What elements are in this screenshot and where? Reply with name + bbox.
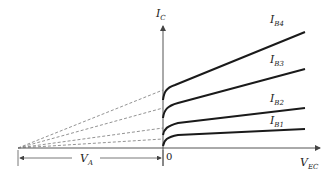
origin-label: 0	[166, 151, 172, 162]
bjt-characteristics-diagram: IB4 IB3 IB2 IB1 IC VEC 0 VA	[0, 0, 335, 180]
label-ib2: IB2	[269, 92, 285, 107]
label-ib1: IB1	[269, 114, 284, 129]
early-extrapolation-lines	[18, 90, 163, 148]
y-axis-label: IC	[155, 7, 166, 22]
curve-ib1	[163, 129, 305, 146]
x-axis-label: VEC	[300, 156, 319, 171]
label-ib4: IB4	[269, 13, 284, 28]
early-voltage-dimension: VA	[18, 150, 163, 167]
early-voltage-label: VA	[80, 152, 93, 167]
label-ib3: IB3	[269, 53, 285, 68]
